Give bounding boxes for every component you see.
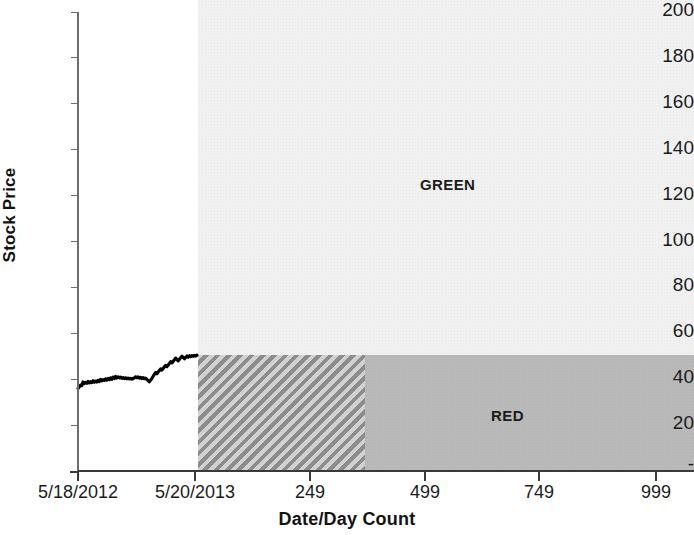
- x-tick-999: [655, 471, 657, 481]
- x-tick-label-749: 749: [524, 482, 554, 503]
- y-tick-80: [71, 287, 78, 288]
- y-tick-label-160: 160: [630, 91, 694, 113]
- y-tick-label-60: 60: [630, 320, 694, 342]
- x-tick-5/20/2013: [194, 471, 196, 481]
- x-tick-5/18/2012: [77, 471, 79, 481]
- series-stock-price: [0, 0, 694, 535]
- x-tick-249: [309, 471, 311, 481]
- y-axis-title: Stock Price: [0, 150, 20, 280]
- x-tick-label-499: 499: [410, 482, 440, 503]
- y-tick-label-40: 40: [630, 366, 694, 388]
- x-tick-749: [538, 471, 540, 481]
- x-tick-499: [424, 471, 426, 481]
- y-tick-160: [71, 103, 78, 104]
- y-tick-100: [71, 241, 78, 242]
- stock-price-chart: GREEN RED 20018016014012010080604020- 5/…: [0, 0, 694, 535]
- y-tick-label-140: 140: [630, 137, 694, 159]
- y-tick-label-80: 80: [630, 274, 694, 296]
- y-tick-180: [71, 57, 78, 58]
- x-tick-label-5/20/2013: 5/20/2013: [155, 482, 235, 503]
- y-tick-label-20: 20: [630, 412, 694, 434]
- y-tick-label-120: 120: [630, 183, 694, 205]
- x-axis-title: Date/Day Count: [0, 509, 694, 530]
- x-tick-label-5/18/2012: 5/18/2012: [38, 482, 118, 503]
- x-tick-label-999: 999: [641, 482, 671, 503]
- y-tick-120: [71, 195, 78, 196]
- y-tick-40: [71, 379, 78, 380]
- y-tick-20: [71, 425, 78, 426]
- x-tick-label-249: 249: [295, 482, 325, 503]
- y-tick-label--: -: [630, 453, 694, 475]
- y-tick-60: [71, 333, 78, 334]
- y-tick-label-200: 200: [630, 0, 694, 21]
- y-tick-label-180: 180: [630, 45, 694, 67]
- y-tick-140: [71, 149, 78, 150]
- x-axis-line: [78, 470, 694, 472]
- y-tick-200: [71, 12, 78, 13]
- y-tick-label-100: 100: [630, 229, 694, 251]
